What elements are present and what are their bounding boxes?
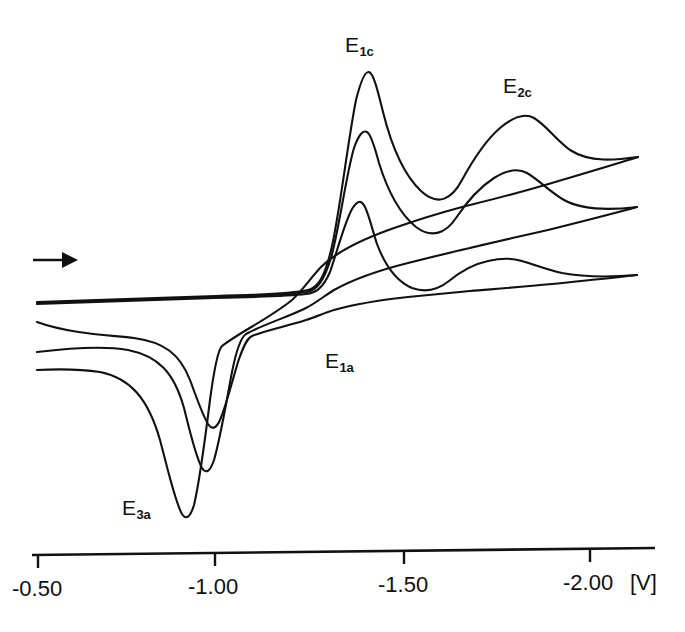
peak-label-E2c-subscript: 2c — [518, 85, 532, 100]
peak-label-E1c-symbol: E — [345, 33, 359, 56]
x-axis-line — [32, 548, 655, 555]
peak-label-E1a-symbol: E — [325, 349, 339, 372]
voltammogram-traces — [37, 72, 638, 517]
x-axis — [32, 548, 655, 568]
x-axis-tick-label-3: -2.00 — [563, 572, 613, 594]
x-axis-tick-label-1: -1.00 — [188, 576, 238, 598]
peak-label-E3a-symbol: E — [122, 496, 136, 519]
scan-direction-arrow-head — [62, 252, 78, 268]
peak-label-E1a: E1a — [325, 350, 353, 371]
peak-label-E2c-symbol: E — [503, 74, 517, 97]
peak-label-E3a: E3a — [122, 497, 150, 518]
x-axis-tick-label-2: -1.50 — [378, 574, 428, 596]
cyclic-voltammogram-figure: E1c E2c E1a E3a -0.50 -1.00 -1.50 -2.00 … — [0, 0, 685, 632]
x-axis-unit-label: [V] — [630, 572, 657, 594]
peak-label-E1c: E1c — [345, 34, 373, 55]
peak-label-E1a-subscript: 1a — [340, 360, 354, 375]
peak-label-E3a-subscript: 3a — [137, 507, 151, 522]
peak-label-E2c: E2c — [503, 75, 531, 96]
scan-1-outer-forward — [37, 72, 638, 302]
peak-label-E1c-subscript: 1c — [360, 44, 374, 59]
scan-2-middle-return — [37, 207, 637, 471]
voltammogram-plot-area — [0, 0, 685, 632]
scan-direction-arrow — [33, 252, 78, 268]
x-axis-tick-label-0: -0.50 — [12, 578, 62, 600]
